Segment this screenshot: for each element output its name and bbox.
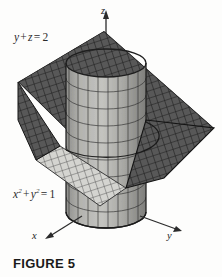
plane-eq-var-z: z [28, 31, 33, 43]
plane-eq-rhs: 2 [41, 31, 49, 43]
cyl-eq-plus: + [22, 188, 31, 200]
axis-label-x: x [32, 230, 37, 241]
axis-y [140, 216, 182, 232]
plane-equation-label: y+z=2 [14, 31, 49, 43]
cylinder-equation-label: x2+y2=1 [13, 188, 56, 200]
axis-label-z: z [101, 5, 105, 16]
figure-container: y+z=2 x2+y2=1 z x y FIGURE 5 [0, 0, 222, 277]
axis-x [45, 216, 82, 239]
plane-eq-plus: + [19, 31, 28, 43]
figure-caption: FIGURE 5 [13, 256, 75, 271]
cyl-eq-rhs: 1 [48, 188, 56, 200]
axis-label-y: y [167, 230, 172, 241]
